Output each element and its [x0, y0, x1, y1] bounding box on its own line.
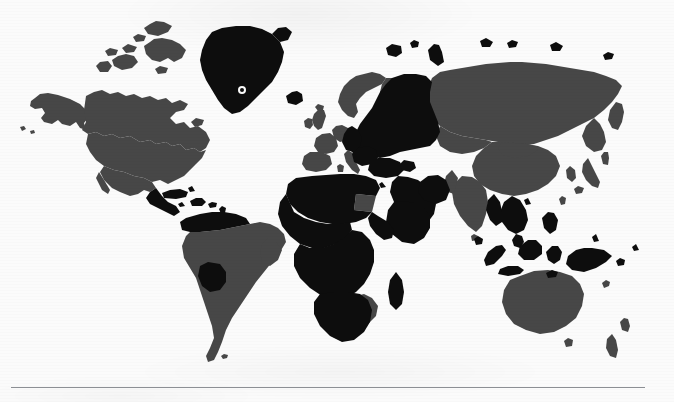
footer-rule: [11, 387, 645, 388]
world-map-svg: [0, 0, 674, 380]
greenland-marker-inner: [240, 88, 244, 92]
page: [0, 0, 674, 402]
world-map-figure: [0, 0, 674, 380]
